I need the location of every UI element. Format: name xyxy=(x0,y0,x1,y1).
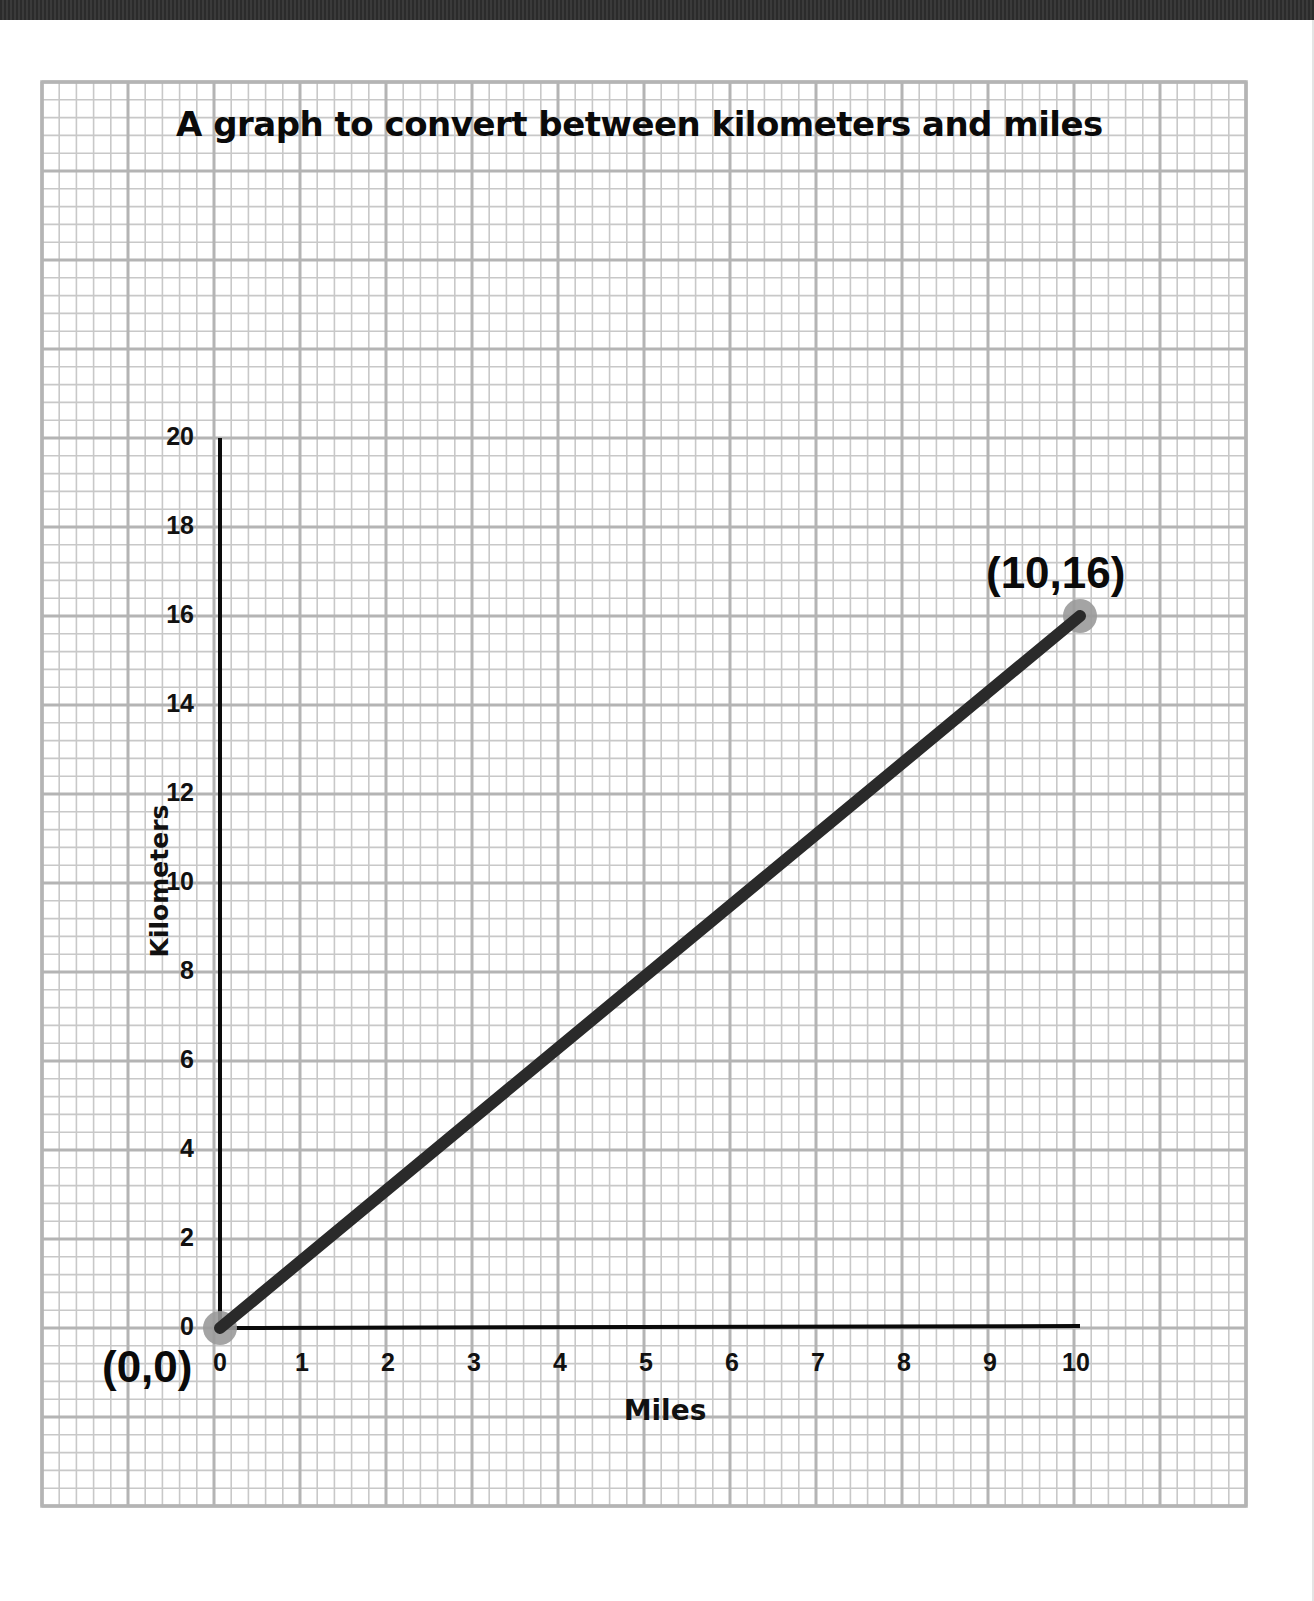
y-tick-label: 20 xyxy=(148,422,194,451)
y-tick-label: 14 xyxy=(148,689,194,718)
x-tick-label: 3 xyxy=(454,1348,494,1377)
x-tick-label: 8 xyxy=(884,1348,924,1377)
y-axis-label: Kilometers xyxy=(145,781,175,981)
x-tick-label: 2 xyxy=(368,1348,408,1377)
y-tick-label: 0 xyxy=(148,1312,194,1341)
point-label-end: (10,16) xyxy=(986,548,1125,598)
y-tick-label: 2 xyxy=(148,1223,194,1252)
x-tick-label: 0 xyxy=(200,1348,240,1377)
point-label-start: (0,0) xyxy=(102,1342,192,1392)
y-tick-label: 6 xyxy=(148,1045,194,1074)
x-axis-label: Miles xyxy=(600,1394,730,1427)
y-tick-label: 16 xyxy=(148,600,194,629)
x-tick-label: 6 xyxy=(712,1348,752,1377)
x-tick-label: 1 xyxy=(282,1348,322,1377)
chart-title: A graph to convert between kilometers an… xyxy=(176,104,1116,144)
y-tick-label: 18 xyxy=(148,511,194,540)
y-tick-label: 4 xyxy=(148,1134,194,1163)
x-tick-label: 9 xyxy=(970,1348,1010,1377)
x-tick-label: 4 xyxy=(540,1348,580,1377)
x-tick-label: 7 xyxy=(798,1348,838,1377)
x-tick-label: 10 xyxy=(1056,1348,1096,1377)
x-tick-label: 5 xyxy=(626,1348,666,1377)
x-axis-line xyxy=(220,1326,1080,1328)
